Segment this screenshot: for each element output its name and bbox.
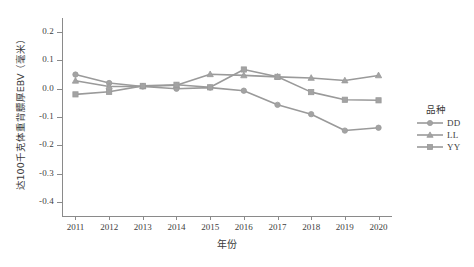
series-dd <box>73 72 381 133</box>
data-point-dd <box>73 72 78 77</box>
data-point-dd <box>308 111 313 116</box>
data-point-yy <box>376 98 381 103</box>
data-point-dd <box>275 102 280 107</box>
legend-item-dd[interactable]: DD <box>416 117 474 129</box>
series-ll <box>72 71 381 89</box>
data-point-yy <box>140 83 145 88</box>
data-point-dd <box>376 125 381 130</box>
square-marker-icon <box>416 141 444 153</box>
data-point-yy <box>275 74 280 79</box>
legend-label-yy: YY <box>444 141 461 153</box>
data-point-yy <box>208 85 213 90</box>
data-point-yy <box>107 89 112 94</box>
series-yy <box>73 67 381 103</box>
data-point-yy <box>73 92 78 97</box>
circle-marker-icon <box>416 117 444 129</box>
x-axis-title: 年份 <box>62 239 392 250</box>
series-plot <box>0 0 474 267</box>
series-line-dd <box>75 75 378 131</box>
legend-title: 品种 <box>426 104 474 116</box>
data-point-yy <box>174 82 179 87</box>
triangle-marker-icon <box>416 129 444 141</box>
line-chart-figure: 达100千克体重背膘厚EBV（毫米） 0.20.10.0-0.1-0.2-0.3… <box>0 0 474 267</box>
data-point-yy <box>241 67 246 72</box>
data-point-ll <box>72 77 78 83</box>
legend: 品种 DD LL YY <box>416 104 474 153</box>
data-point-yy <box>342 97 347 102</box>
legend-label-dd: DD <box>444 117 461 129</box>
data-point-dd <box>342 128 347 133</box>
legend-item-yy[interactable]: YY <box>416 141 474 153</box>
data-point-dd <box>241 88 246 93</box>
legend-item-ll[interactable]: LL <box>416 129 474 141</box>
data-point-yy <box>309 90 314 95</box>
legend-label-ll: LL <box>444 129 459 141</box>
